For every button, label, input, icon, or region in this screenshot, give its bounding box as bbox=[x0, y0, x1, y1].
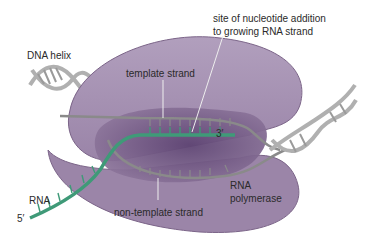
five-prime-label: 5′ bbox=[17, 213, 24, 224]
three-prime-label: 3′ bbox=[216, 128, 223, 139]
rna-polymerase-label-line1: RNA bbox=[230, 180, 251, 191]
non-template-strand-label: non-template strand bbox=[114, 207, 203, 218]
site-label-line1: site of nucleotide addition bbox=[213, 13, 326, 24]
transcription-diagram: DNA helix template strand site of nucleo… bbox=[0, 0, 377, 249]
site-label-line2: to growing RNA strand bbox=[213, 26, 313, 37]
dna-helix-label: DNA helix bbox=[27, 50, 71, 61]
rna-label: RNA bbox=[29, 195, 50, 206]
template-strand-label: template strand bbox=[126, 68, 195, 79]
rna-polymerase-label-line2: polymerase bbox=[230, 193, 282, 204]
